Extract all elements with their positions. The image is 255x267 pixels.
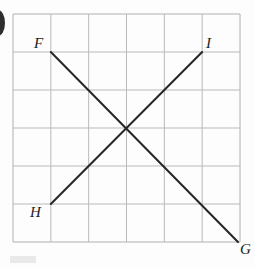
- vertex-label-f: F: [34, 36, 43, 51]
- vertex-label-i: I: [206, 36, 211, 51]
- vertex-label-h: H: [30, 205, 41, 220]
- segment-fg: [51, 52, 238, 242]
- segments: [51, 52, 238, 242]
- geometry-figure: F I H G: [0, 0, 255, 267]
- vertex-label-g: G: [240, 242, 251, 257]
